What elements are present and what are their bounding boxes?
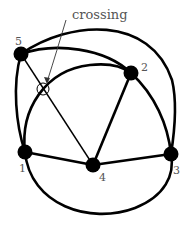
node-3-label: 3: [173, 164, 180, 177]
node-3: [164, 147, 179, 162]
node-1: [18, 145, 33, 160]
node-5-label: 5: [15, 35, 22, 48]
node-4-label: 4: [99, 171, 106, 184]
node-5: [14, 47, 29, 62]
crossing-label: crossing: [72, 7, 128, 22]
node-1-label: 1: [19, 162, 26, 175]
edge-1-2: [24, 64, 131, 152]
node-2: [124, 66, 139, 81]
graph-diagram: crossing 5 2 1 4 3: [0, 0, 185, 227]
node-2-label: 2: [141, 61, 148, 74]
edge-5-2: [21, 48, 131, 73]
edge-1-4: [25, 152, 93, 165]
edge-2-3: [131, 73, 171, 154]
edge-2-4: [93, 73, 131, 165]
edge-4-3: [93, 154, 171, 165]
